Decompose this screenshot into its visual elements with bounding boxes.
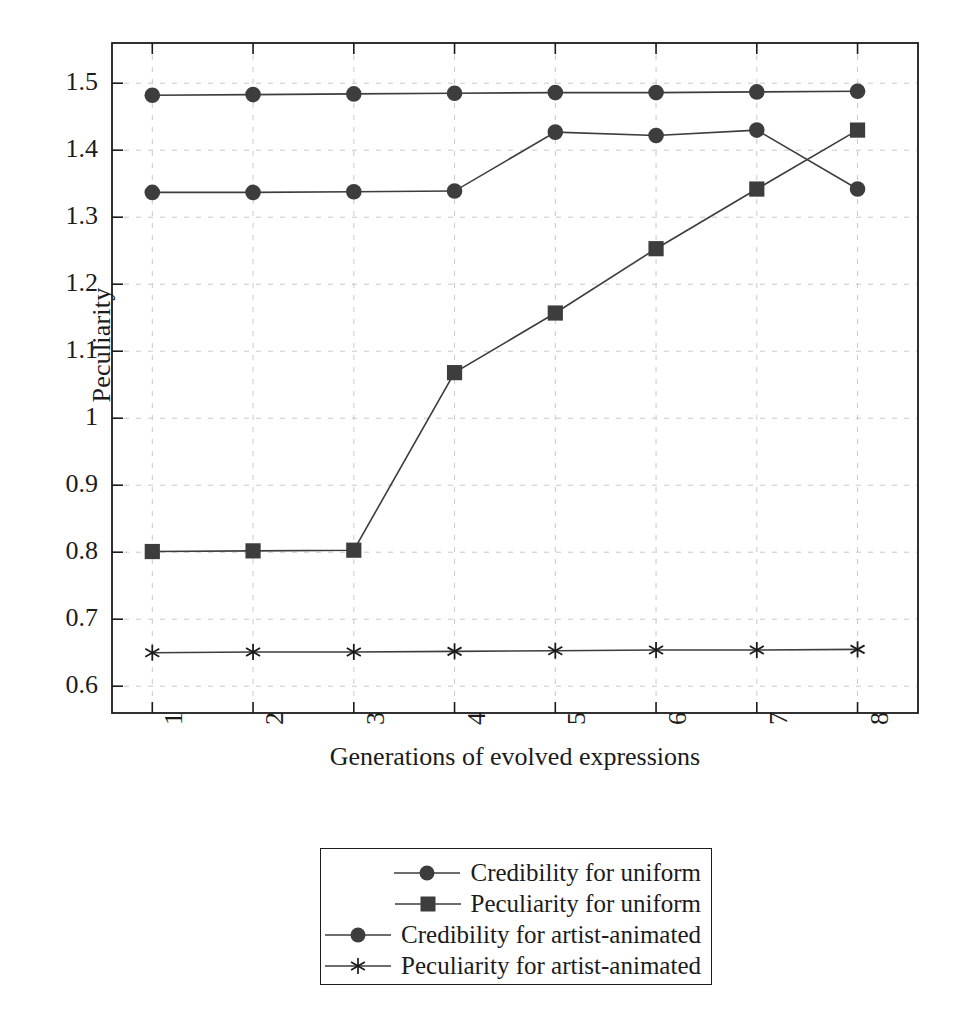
x-tick-label: 8 xyxy=(867,712,893,725)
legend-marker-star-icon xyxy=(321,952,395,980)
y-tick-label: 1.5 xyxy=(18,69,98,95)
y-tick-label: 1.3 xyxy=(18,203,98,229)
legend-item[interactable]: Credibility for uniform xyxy=(331,857,701,888)
legend-marker-circle-icon xyxy=(390,859,464,887)
x-axis-label: Generations of evolved expressions xyxy=(112,742,918,772)
legend-marker-circle-icon xyxy=(321,921,395,949)
legend-label: Credibility for uniform xyxy=(464,860,701,885)
y-tick-label: 0.9 xyxy=(18,471,98,497)
y-tick-label: 0.7 xyxy=(18,605,98,631)
y-tick-label: 0.8 xyxy=(18,538,98,564)
y-tick-label: 1.1 xyxy=(18,337,98,363)
gridlines xyxy=(112,43,918,713)
x-tick-label: 2 xyxy=(262,712,288,725)
legend: Credibility for uniform Peculiarity for … xyxy=(320,848,712,985)
chart-figure: Peculiarity Generations of evolved expre… xyxy=(0,0,958,1023)
legend-label: Peculiarity for artist-animated xyxy=(395,953,701,978)
plot-frame xyxy=(112,43,918,713)
legend-item[interactable]: Peculiarity for uniform xyxy=(331,888,701,919)
x-tick-label: 6 xyxy=(665,712,691,725)
y-tick-label: 1 xyxy=(18,404,98,430)
legend-item[interactable]: Credibility for artist-animated xyxy=(331,919,701,950)
y-tick-label: 1.4 xyxy=(18,136,98,162)
legend-label: Peculiarity for uniform xyxy=(465,891,702,916)
y-tick-label: 0.6 xyxy=(18,672,98,698)
x-tick-label: 7 xyxy=(766,712,792,725)
x-tick-label: 4 xyxy=(464,712,490,725)
y-tick-label: 1.2 xyxy=(18,270,98,296)
legend-marker-square-icon xyxy=(391,890,465,918)
legend-label: Credibility for artist-animated xyxy=(395,922,701,947)
x-tick-label: 1 xyxy=(161,712,187,725)
x-tick-label: 3 xyxy=(363,712,389,725)
tick-marks xyxy=(112,43,858,713)
legend-item[interactable]: Peculiarity for artist-animated xyxy=(331,950,701,981)
x-tick-label: 5 xyxy=(564,712,590,725)
